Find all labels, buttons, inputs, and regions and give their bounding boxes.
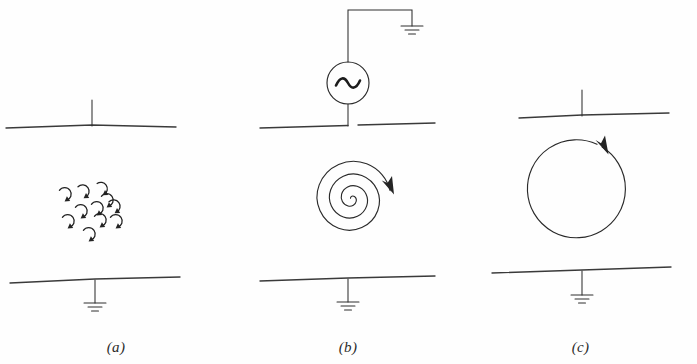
panel-c-drawing [464, 0, 697, 330]
eddy-arrow [75, 205, 87, 219]
sine-wave-icon [336, 78, 360, 87]
spiral-arrow [317, 161, 394, 230]
top-plate-line-left [260, 126, 348, 129]
earth-ground-icon [84, 303, 106, 311]
eddy-arrow [59, 188, 71, 202]
figure-root: (a) [0, 0, 697, 364]
circular-arrow [527, 136, 625, 238]
eddy-arrow [83, 228, 95, 242]
top-plate-line [6, 125, 176, 128]
top-plate-line-right [358, 123, 435, 125]
earth-ground-icon [337, 302, 359, 310]
panel-a-caption: (a) [0, 339, 232, 356]
panel-b: (b) [232, 0, 464, 364]
panel-c-caption: (c) [464, 339, 697, 356]
capacitor-top-plate-with-lead [6, 100, 176, 128]
earth-ground-icon [571, 295, 593, 303]
eddy-arrow [62, 215, 74, 229]
panel-a: (a) [0, 0, 232, 364]
current-loop-circle [527, 140, 625, 238]
panel-b-drawing [232, 0, 464, 330]
top-plate-line [519, 113, 669, 118]
eddy-arrow [110, 215, 122, 229]
capacitor-bottom-plate-with-ground [10, 277, 180, 311]
eddy-arrow [94, 214, 106, 228]
capacitor-top-plate-with-lead [519, 90, 669, 118]
panel-a-drawing [0, 0, 232, 330]
spiral-path [317, 161, 390, 230]
panel-c: (c) [464, 0, 697, 364]
panel-b-caption: (b) [232, 339, 464, 356]
source-top-wire [348, 10, 412, 62]
eddy-arrow [78, 185, 89, 198]
ac-source-with-ground-lead [327, 10, 423, 126]
circle-arrowhead [596, 136, 609, 155]
spiral-arrowhead [382, 176, 394, 195]
capacitor-bottom-plate-with-ground [260, 276, 435, 310]
earth-ground-icon [401, 26, 423, 34]
cluster-of-circulating-arrows [59, 182, 122, 241]
capacitor-bottom-plate-with-ground [492, 267, 671, 303]
